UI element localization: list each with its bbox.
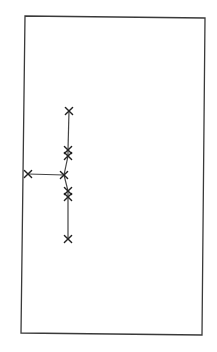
diagram-canvas bbox=[0, 0, 217, 352]
diagram-frame bbox=[21, 16, 205, 335]
edge-n1-n2 bbox=[68, 111, 69, 150]
edge-group bbox=[28, 111, 69, 239]
edge-n4-n8 bbox=[28, 174, 64, 175]
